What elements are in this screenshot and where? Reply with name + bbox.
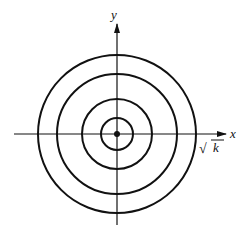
x-axis-label: x	[229, 126, 236, 141]
radicand: k	[213, 140, 219, 155]
radical-sign: √	[199, 141, 207, 156]
origin-dot	[114, 131, 120, 137]
sqrt-k-label: √ k	[199, 140, 224, 156]
y-axis-label: y	[109, 7, 117, 22]
concentric-circles-diagram: x y √ k	[0, 0, 244, 233]
